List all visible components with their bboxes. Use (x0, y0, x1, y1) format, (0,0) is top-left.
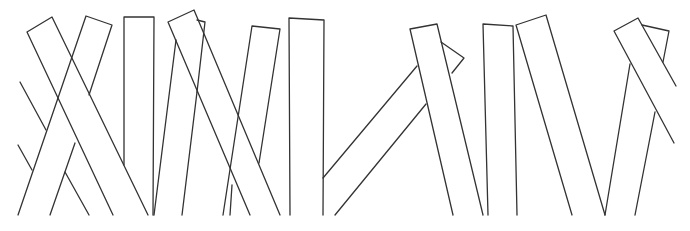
plank-22 (614, 18, 676, 143)
plank-edge-23 (642, 25, 669, 62)
plank-18 (483, 24, 517, 215)
plank-14 (323, 66, 417, 178)
plank-edge-1 (18, 145, 32, 170)
planks-line-drawing (0, 0, 690, 231)
plank-20 (605, 64, 630, 215)
plank-3 (50, 143, 75, 215)
plank-13 (289, 18, 324, 215)
plank-edge-4 (65, 172, 89, 215)
plank-edge-12 (230, 185, 232, 215)
plank-21 (635, 112, 655, 215)
plank-5 (27, 17, 148, 215)
plank-2 (18, 16, 112, 215)
plank-6 (124, 17, 154, 215)
plank-edge-0 (20, 82, 46, 130)
plank-17 (410, 24, 483, 215)
plank-edge-9 (197, 20, 205, 92)
plank-10 (168, 10, 280, 215)
plank-7 (154, 40, 176, 215)
plank-8 (182, 92, 197, 215)
plank-edge-15 (335, 104, 426, 215)
plank-19 (516, 15, 605, 215)
